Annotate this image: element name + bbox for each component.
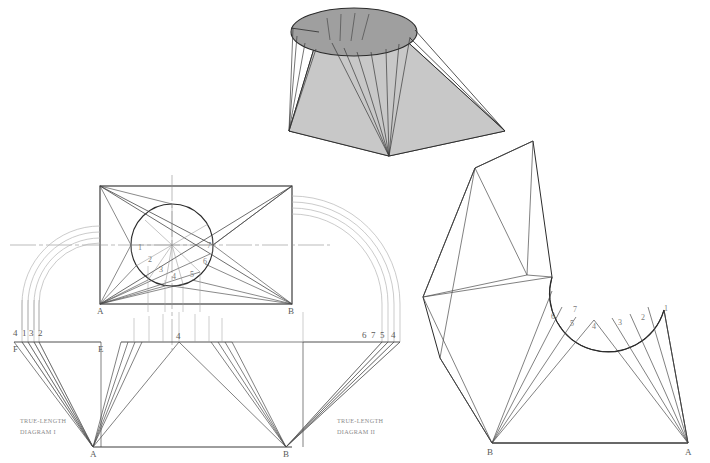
text-labels: A B 1 2 3 4 5 6 7 4 1 3 2 F E A TRUE-LEN… <box>13 241 692 459</box>
tld2-label-B: B <box>283 449 289 459</box>
plan-circle-num-5: 5 <box>190 270 194 279</box>
development-arc <box>550 277 664 352</box>
arc-swings-left <box>22 226 100 447</box>
pictorial-top-ellipse <box>291 8 417 56</box>
tld1-num-1: 1 <box>22 328 27 338</box>
tld1-caption-line1: TRUE-LENGTH <box>20 417 66 424</box>
tld2-caption-line2: DIAGRAM II <box>337 428 375 435</box>
dev-arc-num-1: 1 <box>664 304 668 313</box>
development-upper-triangulation <box>423 141 552 443</box>
plan-circle-num-6: 6 <box>203 257 207 266</box>
plan-circle-num-4: 4 <box>172 272 176 281</box>
tld1-num-4: 4 <box>13 328 18 338</box>
tld2-num-6: 6 <box>362 330 367 340</box>
plan-circle-num-2: 2 <box>148 255 152 264</box>
tld1-label-E: E <box>98 344 104 354</box>
elev-lines-to-B <box>179 342 286 447</box>
tld1-num-2: 2 <box>38 328 43 338</box>
dev-arc-num-5: 5 <box>570 319 574 328</box>
plan-circle-num-3: 3 <box>159 265 163 274</box>
plan-view <box>10 175 330 350</box>
tld1-label-F: F <box>13 344 18 354</box>
dev-arc-num-3: 3 <box>618 318 622 327</box>
development-lines-from-B <box>423 291 594 443</box>
plan-circle-num-7: 7 <box>207 241 211 250</box>
tld2-num-4: 4 <box>391 330 396 340</box>
development-pattern <box>423 141 688 443</box>
development-outline <box>423 141 688 443</box>
dev-label-B: B <box>487 447 493 457</box>
technical-drawing-canvas: A B 1 2 3 4 5 6 7 4 1 3 2 F E A TRUE-LEN… <box>0 0 710 463</box>
tld1-num-3: 3 <box>29 328 34 338</box>
elev-lines-to-A <box>93 342 179 447</box>
tld1-projector-ticks <box>22 300 39 330</box>
development-lines-from-A <box>594 307 688 443</box>
elevation-view <box>93 312 303 447</box>
dev-arc-num-7: 7 <box>573 305 577 314</box>
dev-arc-num-4: 4 <box>592 322 596 331</box>
plan-circle-num-1: 1 <box>138 243 142 252</box>
drawing-sheet: A B 1 2 3 4 5 6 7 4 1 3 2 F E A TRUE-LEN… <box>0 0 710 463</box>
tld1-label-A: A <box>90 449 97 459</box>
dev-arc-num-6: 6 <box>551 312 555 321</box>
plan-centre-lines <box>10 175 330 350</box>
plan-label-B: B <box>288 306 294 316</box>
tld2-caption-line1: TRUE-LENGTH <box>337 417 383 424</box>
tld2-num-5: 5 <box>380 330 385 340</box>
plan-label-A: A <box>97 306 104 316</box>
tld2-num-7: 7 <box>371 330 376 340</box>
pictorial-view <box>289 8 505 156</box>
dev-label-A: A <box>685 447 692 457</box>
elevation-apex-num-4: 4 <box>176 331 181 341</box>
dev-arc-num-2: 2 <box>641 313 645 322</box>
tld1-caption-line2: DIAGRAM I <box>20 428 56 435</box>
